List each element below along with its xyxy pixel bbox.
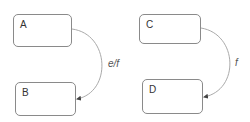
state-c-label: C <box>146 19 153 30</box>
state-a[interactable]: A <box>13 14 72 47</box>
state-b-label: B <box>22 87 29 98</box>
transition-a-to-b-label: e/f <box>108 58 119 69</box>
state-b[interactable]: B <box>15 82 76 116</box>
state-c[interactable]: C <box>139 14 201 44</box>
state-d[interactable]: D <box>142 79 203 114</box>
transition-c-to-d <box>201 28 230 97</box>
state-d-label: D <box>149 84 156 95</box>
transition-c-to-d-label: f <box>235 57 238 68</box>
transition-a-to-b <box>72 29 102 99</box>
state-a-label: A <box>20 19 27 30</box>
